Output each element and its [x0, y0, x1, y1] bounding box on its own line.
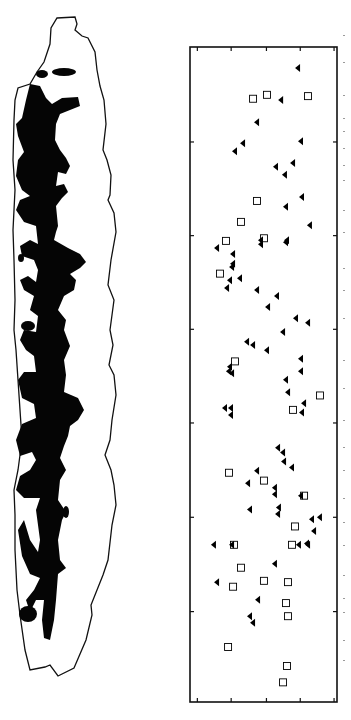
caption-glyph — [343, 522, 345, 523]
caption-glyph — [343, 268, 345, 269]
caption-glyph — [343, 545, 345, 546]
caption-glyph — [343, 447, 345, 448]
caption-glyph — [343, 180, 345, 181]
caption-glyph — [343, 118, 345, 119]
specimen-panel — [13, 17, 116, 676]
caption-glyph — [343, 360, 345, 361]
caption-glyph — [343, 318, 345, 319]
dark-blob — [18, 254, 24, 262]
caption-glyph — [343, 612, 345, 613]
caption-glyph — [343, 210, 345, 211]
caption-glyph — [343, 640, 345, 641]
dark-blob — [36, 70, 48, 78]
plot-frame — [190, 47, 337, 702]
caption-glyph — [343, 165, 345, 166]
caption-glyph — [343, 95, 345, 96]
caption-glyph — [343, 598, 345, 599]
dark-blob — [21, 321, 35, 331]
figure — [0, 0, 351, 720]
caption-glyph — [343, 232, 345, 233]
caption-glyph — [343, 660, 345, 661]
caption-glyph — [343, 388, 345, 389]
caption-glyph — [343, 35, 345, 36]
dark-blob — [19, 606, 37, 622]
caption-glyph — [343, 62, 345, 63]
caption-glyph — [343, 575, 345, 576]
caption-glyph — [343, 131, 345, 132]
caption-glyph — [343, 420, 345, 421]
dark-blob — [52, 68, 76, 76]
dark-blob — [63, 506, 69, 518]
scatter-plot — [190, 47, 337, 702]
caption-glyph — [343, 498, 345, 499]
caption-glyph — [343, 290, 345, 291]
caption-text-strip — [337, 0, 351, 720]
caption-glyph — [343, 470, 345, 471]
caption-glyph — [343, 148, 345, 149]
